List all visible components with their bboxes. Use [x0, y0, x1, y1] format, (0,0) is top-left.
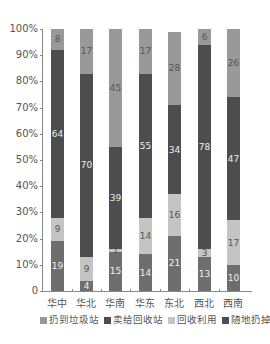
bar-segment: 8 [51, 29, 64, 50]
legend-swatch-icon [222, 317, 229, 324]
x-tick-mark [160, 289, 161, 292]
bar-segment: 21 [168, 236, 181, 291]
y-tick-mark [40, 212, 43, 213]
bar-segment: 14 [139, 218, 152, 255]
bar-segment: 64 [51, 50, 64, 218]
x-tick-mark [72, 289, 73, 292]
y-tick-mark [40, 291, 43, 292]
bar-segment: 14 [139, 254, 152, 291]
bar-东北: 21163428 [168, 29, 181, 291]
y-tick-label: 90% [16, 49, 38, 60]
legend-swatch-icon [40, 317, 47, 324]
y-tick-label: 40% [16, 180, 38, 191]
y-tick-label: 70% [16, 102, 38, 113]
x-tick-mark [130, 289, 131, 292]
bar-segment: 19 [51, 241, 64, 291]
y-tick-mark [40, 29, 43, 30]
x-tick-label: 西南 [218, 295, 248, 310]
bar-华北: 497017 [80, 29, 93, 291]
x-tick-label: 西北 [189, 295, 219, 310]
bar-segment: 9 [51, 218, 64, 242]
bar-segment: 3 [198, 249, 211, 257]
bar-segment: 78 [198, 45, 211, 249]
y-tick-label: 20% [16, 233, 38, 244]
bar-segment: 9 [80, 257, 93, 281]
y-tick-mark [40, 134, 43, 135]
bar-segment: 26 [227, 29, 240, 97]
y-tick-mark [40, 160, 43, 161]
x-axis [42, 291, 252, 292]
bar-segment: 70 [80, 74, 93, 257]
bar-segment: 13 [198, 257, 211, 291]
x-tick-label: 华东 [130, 295, 160, 310]
bar-segment: 6 [198, 29, 211, 45]
legend-swatch-icon [168, 317, 175, 324]
x-tick-label: 东北 [159, 295, 189, 310]
bar-华东: 14145517 [139, 29, 152, 291]
stacked-bar-chart: 010%20%30%40%50%60%70%80%90%100%199648华中… [0, 0, 270, 344]
x-tick-label: 华北 [71, 295, 101, 310]
bar-segment: 28 [168, 32, 181, 105]
y-tick-label: 0 [32, 285, 38, 296]
bar-segment: 4 [80, 281, 93, 291]
y-tick-label: 50% [16, 154, 38, 165]
y-tick-label: 100% [9, 23, 38, 34]
legend-swatch-icon [104, 317, 111, 324]
y-tick-label: 10% [16, 259, 38, 270]
x-tick-label: 华中 [42, 295, 72, 310]
bar-segment: 15 [109, 252, 122, 291]
x-tick-mark [189, 289, 190, 292]
y-tick-mark [40, 108, 43, 109]
x-tick-mark [219, 289, 220, 292]
bar-segment: 55 [139, 74, 152, 218]
y-tick-label: 60% [16, 128, 38, 139]
legend-item: 扔到垃圾站 [40, 312, 99, 326]
bar-segment: 39 [109, 147, 122, 249]
legend-item: 随地扔掉 [222, 312, 270, 326]
bar-西北: 133786 [198, 29, 211, 291]
bar-华南: 1513945 [109, 29, 122, 291]
bar-segment: 47 [227, 97, 240, 220]
y-tick-mark [40, 81, 43, 82]
bar-segment: 17 [139, 29, 152, 74]
x-tick-mark [101, 289, 102, 292]
bar-segment: 34 [168, 105, 181, 194]
y-tick-label: 30% [16, 206, 38, 217]
legend-label: 卖给回收站 [113, 314, 163, 325]
legend: 扔到垃圾站卖给回收站回收利用随地扔掉 [40, 312, 270, 326]
bar-segment: 17 [227, 220, 240, 265]
bar-华中: 199648 [51, 29, 64, 291]
bar-segment: 16 [168, 194, 181, 236]
y-tick-mark [40, 55, 43, 56]
bar-西南: 10174726 [227, 29, 240, 291]
legend-item: 回收利用 [168, 312, 217, 326]
y-tick-mark [40, 186, 43, 187]
bar-segment: 45 [109, 29, 122, 147]
y-tick-mark [40, 239, 43, 240]
x-tick-label: 华南 [100, 295, 130, 310]
legend-label: 扔到垃圾站 [49, 314, 99, 325]
bar-segment: 17 [80, 29, 93, 74]
y-tick-label: 80% [16, 75, 38, 86]
legend-label: 回收利用 [177, 314, 217, 325]
legend-item: 卖给回收站 [104, 312, 163, 326]
bar-segment: 1 [109, 249, 122, 252]
y-tick-mark [40, 265, 43, 266]
bar-segment: 10 [227, 265, 240, 291]
legend-label: 随地扔掉 [231, 314, 270, 325]
